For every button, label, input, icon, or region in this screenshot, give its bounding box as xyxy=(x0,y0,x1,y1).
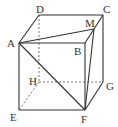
label-G: G xyxy=(106,80,114,92)
label-M: M xyxy=(85,17,95,29)
label-D: D xyxy=(36,3,44,15)
label-H: H xyxy=(29,75,37,87)
label-C: C xyxy=(103,3,110,15)
edge-AM xyxy=(19,29,94,43)
label-A: A xyxy=(7,37,15,49)
label-B: B xyxy=(74,45,81,57)
cube-diagram: D C M A B H G E F xyxy=(0,0,118,127)
label-E: E xyxy=(10,111,17,123)
cube-svg: D C M A B H G E F xyxy=(0,0,118,127)
edge-AD xyxy=(19,15,39,43)
label-F: F xyxy=(81,113,87,125)
